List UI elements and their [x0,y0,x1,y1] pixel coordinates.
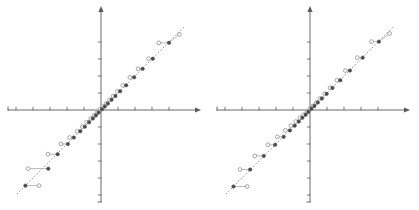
plot-panel-left [0,0,209,210]
filled-marker [316,101,320,105]
open-marker [128,75,132,79]
filled-marker [232,185,236,189]
open-marker [388,32,392,36]
open-marker [147,57,151,61]
filled-marker [79,130,83,134]
plot-panel-right [209,0,418,210]
filled-marker [288,129,292,133]
filled-marker [124,84,128,88]
filled-marker [167,41,171,45]
filled-marker [325,92,329,96]
open-marker [121,83,125,87]
open-marker [355,56,359,60]
filled-marker [141,67,145,71]
filled-marker [304,113,308,117]
open-marker [59,142,63,146]
y-axis-arrow [307,6,312,12]
filled-marker [132,76,136,80]
filled-marker [331,86,335,90]
filled-marker [114,94,118,98]
filled-marker [282,135,286,139]
filled-marker [293,124,297,128]
filled-marker [97,111,101,115]
filled-marker [87,120,91,124]
open-marker [289,124,293,128]
open-marker [245,185,249,189]
filled-marker [361,56,365,60]
filled-marker [310,107,314,111]
filled-marker [339,79,343,83]
filled-marker [262,154,266,158]
open-marker [335,78,339,82]
x-axis-arrow [195,107,201,112]
open-marker [178,32,182,36]
filled-marker [301,116,305,120]
filled-marker [94,114,98,118]
open-marker [253,154,257,158]
open-marker [283,129,287,133]
filled-marker [348,69,352,73]
open-marker [266,143,270,147]
x-axis-arrow [404,107,410,112]
filled-marker [307,110,311,114]
filled-marker [297,120,301,124]
filled-markers-group [24,41,171,187]
filled-marker [313,104,317,108]
y-axis-arrow [98,6,103,12]
open-marker [37,184,41,188]
open-marker [46,152,50,156]
filled-marker [248,168,252,172]
filled-marker [24,184,28,188]
open-marker [136,67,140,71]
open-marker [68,136,72,140]
filled-marker [151,57,155,61]
open-marker [370,40,374,44]
filled-marker [320,97,324,101]
filled-marker [83,125,87,129]
filled-marker [66,142,70,146]
filled-marker [72,136,76,140]
plot-svg [0,0,209,210]
filled-marker [91,117,95,121]
open-marker [343,69,347,73]
open-marker [26,167,30,171]
filled-marker [56,152,60,156]
filled-marker [103,105,107,109]
open-marker [157,41,161,45]
filled-marker [110,98,114,102]
figure-canvas [0,0,419,210]
filled-marker [118,90,122,94]
filled-marker [47,167,51,171]
filled-marker [273,143,277,147]
filled-marker [377,40,381,44]
plot-svg [209,0,418,210]
open-marker [238,168,242,172]
filled-marker [100,108,104,112]
open-marker [275,135,279,139]
filled-marker [106,102,110,106]
